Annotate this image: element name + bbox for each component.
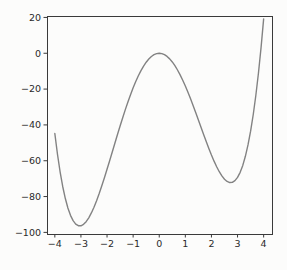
y-tick-label: −20 [21,83,41,94]
figure: −4−3−2−101234200−20−40−60−80−100 [0,0,287,270]
plot-canvas: −4−3−2−101234200−20−40−60−80−100 [0,0,287,270]
x-tick-label: 3 [235,238,241,249]
x-tick-label: 1 [182,238,188,249]
y-tick-label: 20 [29,12,41,23]
x-tick-label: 4 [261,238,267,249]
y-tick-label: −40 [21,119,41,130]
series-line-curve [55,19,264,226]
y-tick-label: 0 [35,48,41,59]
y-tick-label: −100 [15,227,41,238]
axes-box [48,17,273,235]
x-tick-label: 0 [156,238,162,249]
x-tick-label: −3 [74,238,88,249]
x-tick-label: 2 [208,238,214,249]
x-tick-label: −4 [48,238,62,249]
x-tick-label: −1 [126,238,140,249]
x-tick-label: −2 [100,238,114,249]
y-tick-label: −80 [21,191,41,202]
y-tick-label: −60 [21,155,41,166]
